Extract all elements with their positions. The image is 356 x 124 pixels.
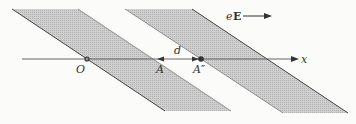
field-label-E: E: [233, 10, 241, 23]
field-label-e: e: [226, 10, 233, 23]
point-label-O: O: [76, 63, 85, 76]
distance-label-d: d: [174, 44, 181, 57]
point-A2-marker: [198, 56, 204, 62]
point-label-A2: A″: [192, 63, 206, 76]
diagram-svg: e E x O A A″ d: [0, 0, 356, 124]
axis-label-x: x: [301, 53, 308, 66]
field-arrow: [243, 13, 272, 19]
point-label-A: A: [155, 63, 164, 76]
diagram-canvas: e E x O A A″ d: [0, 0, 356, 124]
